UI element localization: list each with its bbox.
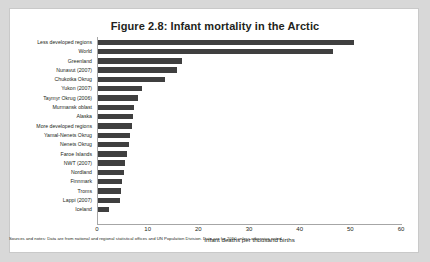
bar-row (98, 159, 402, 168)
x-axis-tick-label: 30 (246, 226, 253, 232)
y-axis-category-label: Troms (12, 187, 95, 196)
y-axis-category-label: Nenets Okrug (12, 140, 95, 149)
x-axis-tick-label: 10 (144, 226, 151, 232)
y-axis-category-label: Less developed regions (12, 38, 95, 47)
y-axis-category-label: Nunavut (2007) (12, 66, 95, 75)
x-axis-tick-label: 50 (347, 226, 354, 232)
bar-row (98, 131, 402, 140)
bar (98, 105, 134, 110)
bar (98, 198, 120, 203)
bar-row (98, 168, 402, 177)
bar (98, 188, 121, 193)
bar-row (98, 177, 402, 186)
y-axis-category-label: Murmansk oblast (12, 103, 95, 112)
bar-row (98, 205, 402, 214)
bar-row (98, 112, 402, 121)
bar (98, 133, 130, 138)
y-axis-category-label: More developed regions (12, 122, 95, 131)
y-axis-category-label: Lappi (2007) (12, 196, 95, 205)
bar-series (98, 38, 402, 224)
bar-row (98, 47, 402, 56)
bar-row (98, 94, 402, 103)
y-axis-category-label: Faroe Islands (12, 150, 95, 159)
bar (98, 170, 124, 175)
bar-row (98, 75, 402, 84)
x-axis-tick-label: 20 (195, 226, 202, 232)
y-axis-category-label: Chukotka Okrug (12, 75, 95, 84)
bar (98, 179, 122, 184)
bar (98, 77, 165, 82)
bar (98, 142, 129, 147)
page-title: Figure 2.8: Infant mortality in the Arct… (10, 20, 420, 32)
y-axis-category-label: Taymyr Okrug (2006) (12, 94, 95, 103)
y-axis-category-label: World (12, 47, 95, 56)
bar-row (98, 38, 402, 47)
bar-row (98, 84, 402, 93)
bar (98, 123, 132, 128)
x-axis-tick-label: 40 (296, 226, 303, 232)
bar (98, 151, 127, 156)
bar (98, 49, 333, 54)
bar-row (98, 150, 402, 159)
bar-row (98, 103, 402, 112)
bar (98, 160, 125, 165)
bar (98, 40, 354, 45)
bar-row (98, 140, 402, 149)
bar (98, 86, 142, 91)
y-axis-category-label: Greenland (12, 57, 95, 66)
x-axis-tick-label: 0 (95, 226, 98, 232)
bar (98, 114, 133, 119)
y-axis-category-label: Alaska (12, 112, 95, 121)
y-axis-category-label: Iceland (12, 205, 95, 214)
figure-footnote: Sources and notes: Data are from nationa… (9, 236, 409, 241)
y-axis-category-label: Nordland (12, 168, 95, 177)
y-axis-category-label: Finnmark (12, 177, 95, 186)
bar-row (98, 122, 402, 131)
bar-row (98, 187, 402, 196)
bar (98, 95, 138, 100)
bar (98, 207, 109, 212)
y-axis-category-label: NWT (2007) (12, 159, 95, 168)
bar-row (98, 196, 402, 205)
y-axis-category-label: Yamal-Nenets Okrug (12, 131, 95, 140)
bar-row (98, 57, 402, 66)
bar (98, 67, 177, 72)
x-axis-tick-label: 60 (398, 226, 405, 232)
bar-row (98, 66, 402, 75)
x-axis-ticks: 0102030405060 (97, 226, 407, 236)
y-axis-category-label: Yukon (2007) (12, 84, 95, 93)
figure-container: Figure 2.8: Infant mortality in the Arct… (9, 8, 419, 253)
bar (98, 58, 182, 63)
y-axis-category-labels: Less developed regionsWorldGreenlandNuna… (12, 38, 95, 224)
